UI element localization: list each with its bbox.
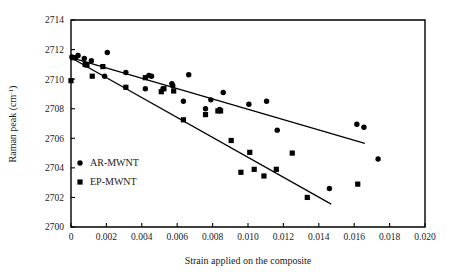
- data-point: [305, 195, 310, 200]
- caption-strip: [0, 266, 457, 274]
- data-point: [361, 124, 366, 129]
- data-point: [238, 170, 243, 175]
- data-point: [149, 73, 154, 78]
- data-point: [246, 102, 251, 107]
- data-point: [290, 150, 295, 155]
- data-point: [261, 173, 266, 178]
- data-point: [100, 64, 105, 69]
- x-tick-label: 0.012: [273, 232, 295, 242]
- x-tick-label: 0.020: [414, 232, 436, 242]
- raman-peak-vs-strain-scatter-chart: 00.0020.0040.0060.0080.0100.0120.0140.01…: [0, 0, 457, 274]
- data-point: [375, 156, 380, 161]
- data-point: [355, 182, 360, 187]
- data-point: [68, 78, 73, 83]
- data-point: [247, 150, 252, 155]
- data-point: [181, 99, 186, 104]
- data-point: [84, 62, 89, 67]
- x-tick-label: 0: [69, 232, 74, 242]
- data-point: [354, 122, 359, 127]
- data-point: [90, 74, 95, 79]
- data-point: [170, 83, 175, 88]
- data-point: [75, 53, 80, 58]
- data-point: [203, 106, 208, 111]
- y-tick-label: 2710: [45, 75, 64, 85]
- data-point: [252, 167, 257, 172]
- x-tick-label: 0.018: [379, 232, 401, 242]
- y-axis-title: Raman peak (cm-1): [7, 86, 19, 163]
- figure-container: 00.0020.0040.0060.0080.0100.0120.0140.01…: [0, 0, 457, 274]
- y-tick-label: 2712: [45, 45, 64, 55]
- legend-label-ep-mwnt: EP-MWNT: [90, 176, 137, 187]
- data-point: [181, 117, 186, 122]
- data-point: [327, 186, 332, 191]
- data-point: [161, 86, 166, 91]
- data-point: [186, 72, 191, 77]
- data-point: [218, 108, 223, 113]
- data-point: [221, 90, 226, 95]
- data-point: [203, 112, 208, 117]
- data-point: [102, 73, 107, 78]
- x-tick-label: 0.010: [237, 232, 259, 242]
- data-point: [208, 97, 213, 102]
- data-point: [264, 99, 269, 104]
- x-tick-label: 0.006: [167, 232, 189, 242]
- x-tick-label: 0.016: [344, 232, 366, 242]
- data-point: [105, 50, 110, 55]
- y-tick-label: 2708: [45, 104, 64, 114]
- data-point: [143, 86, 148, 91]
- data-point: [70, 55, 75, 60]
- y-tick-label: 2700: [45, 222, 64, 232]
- data-point: [229, 138, 234, 143]
- legend-marker-square: [77, 179, 82, 184]
- data-point: [274, 167, 279, 172]
- data-point: [123, 70, 128, 75]
- x-tick-label: 0.004: [131, 232, 153, 242]
- y-tick-label: 2714: [45, 15, 64, 25]
- svg-text:Raman peak (cm-1): Raman peak (cm-1): [7, 86, 19, 163]
- x-tick-label: 0.002: [96, 232, 118, 242]
- data-point: [82, 56, 87, 61]
- x-axis-title: Strain applied on the composite: [185, 255, 312, 266]
- y-tick-label: 2704: [45, 163, 64, 173]
- data-point: [171, 88, 176, 93]
- legend-label-ar-mwnt: AR-MWNT: [90, 157, 139, 168]
- x-tick-label: 0.014: [308, 232, 330, 242]
- y-tick-label: 2706: [45, 134, 64, 144]
- data-point: [123, 85, 128, 90]
- legend-marker-circle: [77, 160, 82, 165]
- x-tick-label: 0.008: [202, 232, 224, 242]
- y-tick-label: 2702: [45, 193, 64, 203]
- data-point: [275, 127, 280, 132]
- data-point: [143, 75, 148, 80]
